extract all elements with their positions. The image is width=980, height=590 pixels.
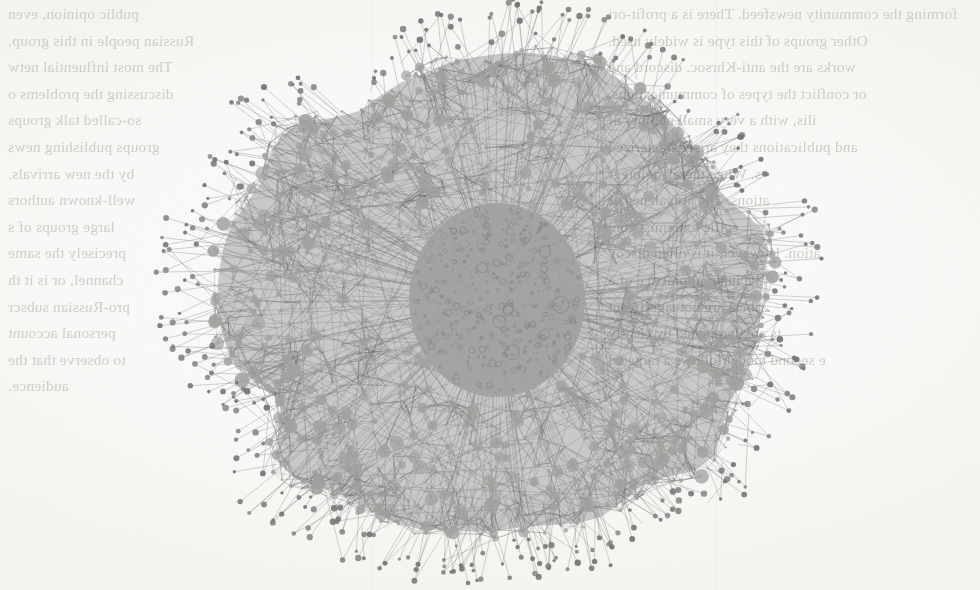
- network-graph-canvas: [0, 0, 980, 590]
- scanned-page: public opinion, evenRussian people in th…: [0, 0, 980, 590]
- network-graph-figure: [0, 0, 980, 590]
- core-cluster: [409, 203, 585, 397]
